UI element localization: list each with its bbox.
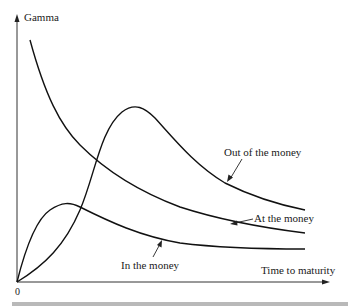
itm-label: In the money (121, 260, 179, 271)
y-axis-arrow-icon (15, 14, 20, 22)
atm-arrow (235, 219, 253, 223)
itm-arrowhead-icon (157, 240, 162, 248)
otm-arrow (230, 159, 242, 179)
bottom-divider (12, 302, 348, 306)
y-axis-label: Gamma (24, 12, 59, 23)
otm-label: Out of the money (224, 147, 301, 158)
origin-label: 0 (15, 287, 20, 297)
x-axis-label: Time to maturity (261, 265, 335, 276)
atm-label: At the money (254, 213, 314, 224)
x-axis-arrow-icon (322, 280, 330, 285)
otm-curve (17, 107, 305, 282)
